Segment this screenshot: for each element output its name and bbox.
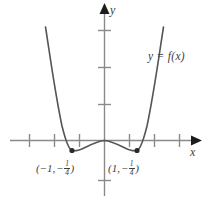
y-coordinate-sign: − [121, 163, 128, 174]
right-minimum-coordinate-label: ( 1 , − 1 4 ) [108, 160, 139, 177]
y-axis-arrowhead [100, 3, 110, 14]
x-axis-label: x [190, 146, 195, 158]
fraction-denominator: 4 [64, 169, 70, 177]
fraction-denominator: 4 [129, 169, 135, 177]
fraction-numerator: 1 [129, 160, 135, 168]
graph-canvas [0, 0, 208, 206]
y-coordinate-sign: − [57, 163, 64, 174]
y-coordinate-fraction: 1 4 [64, 160, 70, 177]
x-coordinate-value: −1 [40, 163, 53, 174]
close-paren: ) [135, 163, 139, 174]
left-minimum-point [69, 148, 74, 153]
fraction-numerator: 1 [64, 160, 70, 168]
function-graph-figure: y x y = f(x) ( −1 , − 1 4 ) ( 1 , − 1 4 … [0, 0, 208, 206]
right-minimum-point [134, 148, 139, 153]
x-axis-arrowhead [191, 136, 202, 146]
curve-equation-label: y = f(x) [148, 51, 185, 63]
y-axis-label: y [110, 4, 115, 16]
close-paren: ) [71, 163, 75, 174]
left-minimum-coordinate-label: ( −1 , − 1 4 ) [36, 160, 74, 177]
y-coordinate-fraction: 1 4 [129, 160, 135, 177]
